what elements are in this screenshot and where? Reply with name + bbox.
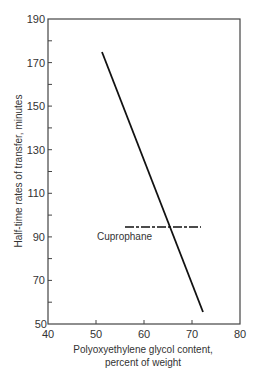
x-tick-80: 80	[234, 328, 246, 340]
x-axis-title-line1: Polyoxyethylene glycol content,	[73, 344, 213, 355]
y-tick-150: 150	[27, 100, 45, 112]
x-tick-70: 70	[186, 328, 198, 340]
cuprophane-label: Cuprophane	[97, 231, 152, 242]
x-axis-title-line2: percent of weight	[105, 357, 181, 368]
x-tick-50: 50	[90, 328, 102, 340]
y-tick-130: 130	[27, 144, 45, 156]
plot-frame	[48, 19, 240, 324]
y-tick-90: 90	[33, 231, 45, 243]
y-tick-190: 190	[27, 13, 45, 25]
y-axis-title: Half-time rates of transfer, minutes	[13, 95, 24, 248]
y-tick-110: 110	[27, 187, 45, 199]
chart: 190 170 150 130 110 90 70 50 40 50 60 70…	[0, 0, 257, 378]
y-tick-labels: 190 170 150 130 110 90 70 50	[27, 13, 47, 330]
y-tick-70: 70	[33, 274, 45, 286]
x-tick-60: 60	[138, 328, 150, 340]
series-peg-line	[102, 52, 203, 312]
y-tick-170: 170	[27, 57, 45, 69]
x-tick-labels: 40 50 60 70 80	[42, 328, 246, 340]
x-tick-40: 40	[42, 328, 54, 340]
